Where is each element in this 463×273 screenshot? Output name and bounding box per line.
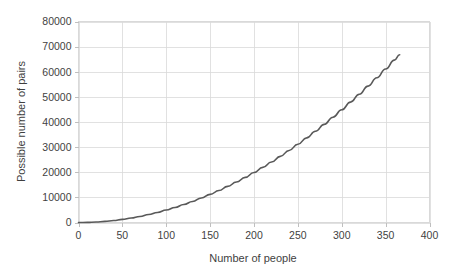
y-tick-label: 30000 bbox=[42, 141, 71, 153]
x-tick-label: 350 bbox=[377, 229, 395, 241]
x-axis-title: Number of people bbox=[209, 252, 296, 264]
y-axis-tick-labels: 0100002000030000400005000060000700008000… bbox=[42, 15, 71, 228]
y-axis-title: Possible number of pairs bbox=[15, 60, 27, 182]
y-tick-label: 70000 bbox=[42, 40, 71, 52]
x-tick-label: 0 bbox=[76, 229, 82, 241]
y-tick-label: 40000 bbox=[42, 116, 71, 128]
x-tick-label: 100 bbox=[157, 229, 175, 241]
y-tick-label: 80000 bbox=[42, 15, 71, 27]
x-tick-label: 50 bbox=[117, 229, 129, 241]
x-tick-label: 300 bbox=[333, 229, 351, 241]
x-tick-label: 250 bbox=[289, 229, 307, 241]
pairs-line-chart: 0100002000030000400005000060000700008000… bbox=[0, 0, 463, 273]
y-tick-label: 0 bbox=[66, 216, 72, 228]
x-tick-label: 200 bbox=[245, 229, 263, 241]
chart-container: 0100002000030000400005000060000700008000… bbox=[0, 0, 463, 273]
y-tick-label: 10000 bbox=[42, 191, 71, 203]
x-tick-label: 400 bbox=[421, 229, 439, 241]
y-tick-label: 20000 bbox=[42, 166, 71, 178]
x-tick-label: 150 bbox=[201, 229, 219, 241]
y-tick-label: 50000 bbox=[42, 91, 71, 103]
y-tick-label: 60000 bbox=[42, 66, 71, 78]
